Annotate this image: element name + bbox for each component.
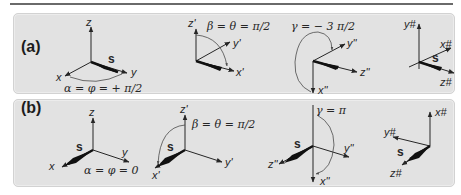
axis-label-y: y — [130, 66, 138, 78]
frame-b4: x# y# z# s — [383, 106, 448, 179]
axis-label-z-prime: z' — [179, 103, 189, 115]
panel-b: (b) z y x s α = φ = 0 — [13, 99, 455, 187]
vector-label-s: s — [294, 137, 301, 151]
axis-label-y-hash: y# — [403, 18, 417, 30]
axis-label-z: z — [85, 16, 92, 28]
frame-a4: y# x# z# s — [403, 18, 454, 88]
frame-a2: z' y' x' β = θ = π/2 — [187, 17, 270, 78]
rotation-diagrams-a: z y x s α = φ = + π/2 z' y' x' β = θ = π… — [14, 14, 454, 93]
vector-label-s: s — [76, 140, 83, 154]
axis-label-x-prime: x' — [235, 66, 245, 78]
vector-label-s: s — [432, 51, 439, 65]
vector-label-s: s — [167, 140, 174, 154]
axis-label-z-hash: z# — [389, 167, 403, 179]
axis-label-y-prime: y' — [232, 37, 242, 49]
axis-label-z-dprime: z'' — [267, 158, 279, 170]
axis-label-x-prime: x' — [151, 169, 161, 181]
axis-label-x-dprime: x'' — [317, 84, 329, 96]
vector-label-s: s — [397, 145, 404, 159]
axis-label-z-dprime: z'' — [359, 66, 371, 78]
frame-b1: z y x s α = φ = 0 — [48, 106, 139, 177]
angle-label: α = φ = 0 — [84, 164, 139, 177]
axis-label-x-hash: x# — [434, 106, 448, 118]
axis-label-x: x — [55, 71, 62, 83]
axis-label-x: x — [48, 160, 55, 172]
axis-label-y-dprime: y'' — [343, 142, 355, 154]
top-rule — [10, 3, 453, 5]
axis-label-y-dprime: y'' — [346, 37, 358, 49]
angle-label: α = φ = + π/2 — [64, 82, 142, 95]
rotation-diagrams-b: z y x s α = φ = 0 z' y' x' s β = θ = π/2 — [14, 100, 454, 186]
angle-label: γ = − 3 π/2 — [291, 20, 355, 33]
panel-a: (a) z y x s α = φ = + π/2 — [13, 13, 455, 94]
angle-label: β = θ = π/2 — [191, 118, 255, 131]
frame-b2: z' y' x' s β = θ = π/2 — [151, 103, 255, 181]
frame-a1: z y x s α = φ = + π/2 — [55, 16, 142, 95]
axis-label-x-dprime: x'' — [319, 175, 331, 187]
axis-label-y-prime: y' — [224, 156, 234, 168]
axis-label-z-prime: z' — [187, 17, 197, 29]
axis-label-x-hash: x# — [439, 38, 453, 50]
angle-label: β = θ = π/2 — [206, 20, 270, 33]
vector-label-s: s — [108, 52, 115, 66]
axis-label-y: y — [121, 146, 129, 158]
angle-label: γ = π — [316, 104, 347, 117]
axis-label-z: z — [88, 106, 95, 118]
frame-a3: y'' z'' x'' γ = − 3 π/2 — [291, 20, 371, 96]
axis-label-y-hash: y# — [383, 126, 397, 138]
axis-label-z-hash: z# — [439, 76, 453, 88]
frame-b3: z'' y'' x'' s γ = π — [267, 104, 355, 187]
